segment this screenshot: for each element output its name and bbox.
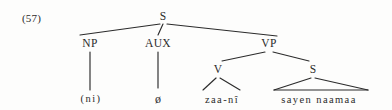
node-s-root: S — [160, 11, 167, 23]
terminal-subject: (ni) — [81, 94, 102, 105]
syntax-tree-figure: (57) S NP AUX VP V S (ni) ø zaa-nî sayen… — [0, 0, 392, 110]
node-np: NP — [82, 38, 97, 50]
branch-s-vp — [167, 24, 277, 36]
branch-s-np — [80, 24, 160, 35]
node-vp: VP — [261, 38, 276, 50]
branch-v-left — [203, 78, 216, 90]
branch-vp-v — [222, 52, 265, 61]
branch-v-right — [220, 78, 240, 90]
branch-s-triangle-right — [315, 78, 368, 90]
terminal-clause: sayen naamaa — [281, 95, 356, 106]
node-s-embedded: S — [310, 64, 317, 76]
terminal-verb: zaa-nî — [205, 95, 239, 106]
branch-s-aux — [158, 24, 163, 35]
branch-vp-s — [273, 52, 309, 61]
terminal-aux-null: ø — [155, 93, 161, 105]
branch-s-triangle-left — [274, 78, 311, 90]
node-aux: AUX — [145, 38, 171, 50]
node-v: V — [214, 64, 223, 76]
example-number: (57) — [22, 13, 41, 24]
